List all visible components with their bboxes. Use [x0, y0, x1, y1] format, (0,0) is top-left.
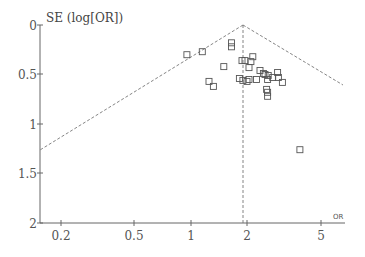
study-point — [246, 77, 252, 83]
study-point — [265, 93, 271, 99]
study-point — [254, 77, 260, 83]
study-point — [236, 76, 242, 82]
x-tick-label: 2 — [243, 229, 251, 243]
x-tick-label: 0.5 — [124, 229, 143, 243]
y-tick-label: 0.5 — [18, 68, 37, 82]
study-point — [246, 65, 252, 71]
study-point — [184, 52, 190, 58]
y-axis-title: SE (log[OR]) — [46, 11, 123, 25]
y-tick-label: 2 — [29, 217, 37, 231]
study-point — [297, 147, 303, 153]
x-tick-label: 5 — [317, 229, 325, 243]
y-tick-label: 1 — [29, 118, 37, 132]
x-tick-label: 1 — [187, 229, 195, 243]
x-tick-label: 0.2 — [51, 229, 70, 243]
study-point — [229, 44, 235, 50]
y-tick-label: 0 — [29, 19, 37, 33]
y-tick-label: 1.5 — [18, 167, 37, 181]
study-point — [229, 40, 235, 46]
study-point — [221, 64, 227, 70]
funnel-plot: 0 0.5 1 1.5 2 0.2 0.5 1 2 5 SE (log[OR])… — [0, 0, 365, 257]
funnel-lines — [40, 25, 343, 223]
x-axis-title: OR — [333, 213, 344, 221]
